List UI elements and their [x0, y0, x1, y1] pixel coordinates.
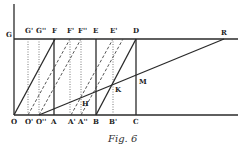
dashed-diagonal-A1E1	[71, 39, 113, 115]
label-A-prime: A'	[67, 117, 76, 126]
label-H: H	[82, 99, 89, 108]
label-G: G	[6, 30, 12, 39]
label-O: O	[11, 117, 17, 126]
bottom-labels: O O' O'' A A' A'' B B' C	[11, 117, 139, 126]
label-M: M	[139, 77, 147, 86]
line-O2-R	[39, 39, 224, 115]
label-F-double-prime: F''	[78, 26, 87, 35]
label-O-double-prime: O''	[36, 117, 46, 126]
label-F-prime: F'	[67, 26, 74, 35]
label-A: A	[50, 117, 57, 126]
label-R: R	[221, 28, 227, 37]
label-C: C	[133, 117, 139, 126]
label-E-prime: E'	[110, 26, 117, 35]
label-B: B	[93, 117, 99, 126]
label-O-prime: O'	[25, 117, 33, 126]
label-K: K	[115, 85, 122, 94]
label-A-double-prime: A''	[77, 117, 88, 126]
dashed-diagonal-O2F2	[39, 39, 81, 115]
label-F: F	[52, 26, 57, 35]
figure-6-diagram: G G' G'' F F' F'' E E' D R O O' O'' A A'…	[0, 0, 248, 153]
top-labels: G G' G'' F F' F'' E E' D R	[6, 26, 227, 39]
label-G-double-prime: G''	[36, 26, 46, 35]
diagonal-OF	[14, 39, 55, 115]
label-E: E	[93, 26, 98, 35]
label-G-prime: G'	[25, 26, 33, 35]
point-labels: H K M	[82, 77, 147, 108]
label-B-prime: B'	[109, 117, 117, 126]
figure-caption: Fig. 6	[107, 133, 138, 144]
label-D: D	[133, 26, 139, 35]
geometry-diagram: G G' G'' F F' F'' E E' D R O O' O'' A A'…	[0, 0, 248, 153]
